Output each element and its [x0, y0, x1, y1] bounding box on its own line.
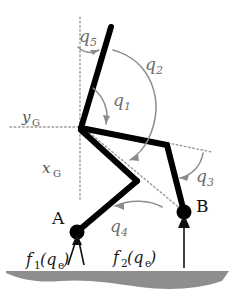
svg-text:q: q — [145, 54, 156, 74]
angle-arc-q4 — [115, 201, 162, 210]
svg-text:G: G — [53, 168, 61, 179]
label-q4: q 4 — [110, 216, 128, 239]
label-y-g: y G — [21, 108, 40, 128]
label-q5: q 5 — [79, 26, 97, 49]
ground-surface — [6, 271, 229, 289]
label-q1: q 1 — [113, 90, 131, 113]
label-f1: f 1 (q e ) — [25, 250, 69, 271]
svg-text:(q: (q — [40, 250, 56, 269]
svg-text:q: q — [196, 166, 207, 186]
svg-text:2: 2 — [155, 64, 163, 77]
kinematic-diagram: q 5 q 1 q 2 q 3 q 4 y G x G A B f 1 (q e… — [0, 0, 235, 302]
svg-text:4: 4 — [120, 226, 128, 239]
angle-arc-q1 — [93, 88, 110, 124]
link-left-shank — [78, 181, 137, 231]
svg-text:): ) — [62, 250, 69, 269]
label-q3: q 3 — [196, 166, 214, 189]
svg-text:q: q — [113, 90, 124, 110]
svg-text:q: q — [110, 216, 121, 236]
label-x-g: x G — [42, 159, 61, 179]
svg-text:y: y — [21, 108, 31, 126]
svg-text:q: q — [79, 26, 90, 46]
force-arrow-f2 — [178, 214, 190, 268]
label-point-a: A — [51, 208, 65, 228]
svg-text:G: G — [32, 117, 40, 128]
hip-to-footb-dotted-line — [86, 130, 182, 210]
svg-text:5: 5 — [90, 36, 97, 49]
svg-text:(q: (q — [127, 248, 143, 267]
svg-text:1: 1 — [124, 100, 131, 113]
svg-text:x: x — [42, 159, 51, 177]
label-point-b: B — [196, 196, 209, 216]
svg-text:): ) — [149, 248, 156, 267]
label-f2: f 2 (q e ) — [112, 248, 156, 269]
svg-text:3: 3 — [207, 176, 214, 189]
label-q2: q 2 — [145, 54, 163, 77]
knee-reference-dotted-line — [168, 143, 212, 152]
force-arrow-f1 — [68, 234, 84, 265]
